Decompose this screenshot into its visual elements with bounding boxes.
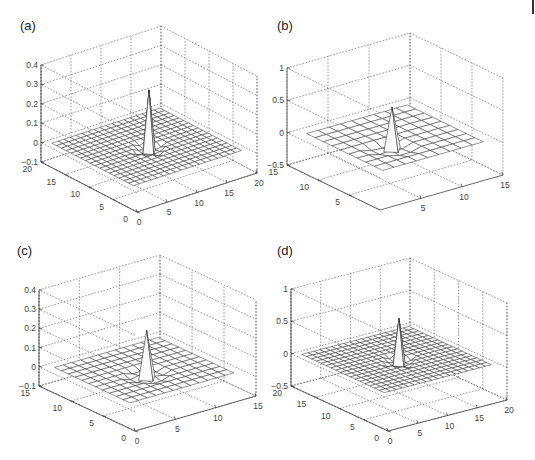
gridline-z-leftedge [291, 289, 388, 334]
y-tick [364, 420, 367, 421]
y-tick [388, 431, 391, 432]
y-tick-label: 10 [321, 411, 331, 421]
x-tick-label: 5 [417, 428, 422, 438]
x-tick-label: 20 [504, 405, 514, 415]
z-tick-label: 1 [283, 284, 288, 294]
figure-4-panel-surface-plots: (a) (b) (c) (d) −0.100.10.20.30.40510152… [0, 0, 535, 460]
x-tick-label: 0 [388, 436, 393, 446]
z-tick-label: 0.5 [276, 316, 288, 326]
y-tick-label: 15 [297, 399, 307, 409]
y-tick-label: 5 [350, 422, 355, 432]
y-tick-label: 0 [374, 433, 379, 443]
y-tick-label: 20 [273, 388, 283, 398]
x-tick-label: 15 [475, 413, 485, 423]
y-tick [315, 397, 318, 398]
surface-plot-d: −0.500.510510152005101520 [0, 0, 535, 460]
y-tick [340, 409, 343, 410]
z-tick-label: 0 [283, 349, 288, 359]
gridline-y-floor [364, 389, 483, 420]
x-tick-label: 10 [445, 421, 455, 431]
